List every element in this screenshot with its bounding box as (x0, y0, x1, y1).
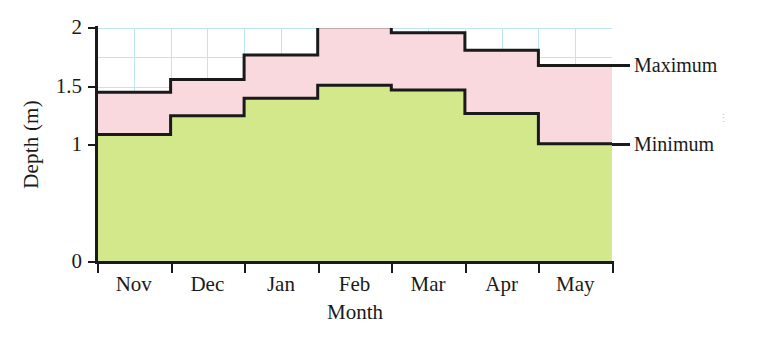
plot-area (97, 28, 612, 262)
x-axis-tick-label-apr: Apr (465, 272, 539, 296)
minimum-legend-label: Minimum (634, 134, 714, 154)
y-axis-tick (88, 86, 97, 88)
minimum-legend-stub (612, 143, 630, 146)
y-axis-tick-label: 2 (22, 17, 82, 38)
depth-by-month-step-chart: 011.52 NovDecJanFebMarAprMay Depth (m) M… (0, 0, 766, 351)
x-axis-tick-label-may: May (538, 272, 612, 296)
maximum-legend-label: Maximum (634, 55, 717, 75)
maximum-legend-stub (612, 64, 630, 67)
x-axis-tick-label-mar: Mar (391, 272, 465, 296)
x-axis-tick-label-nov: Nov (97, 272, 171, 296)
scan-artifact: ⋮ (718, 112, 729, 125)
x-axis-tick-label-dec: Dec (171, 272, 245, 296)
y-axis-tick (88, 27, 97, 29)
y-axis-title: Depth (m) (19, 70, 44, 220)
x-axis-tick-label-jan: Jan (244, 272, 318, 296)
x-axis-line (95, 261, 614, 264)
y-axis-tick (88, 261, 97, 263)
y-axis-tick (88, 144, 97, 146)
series-svg (97, 28, 612, 262)
x-axis-tick-label-feb: Feb (318, 272, 392, 296)
x-axis-tick (612, 263, 614, 273)
x-axis-title: Month (215, 300, 495, 325)
y-axis-tick-label: 0 (22, 251, 82, 272)
